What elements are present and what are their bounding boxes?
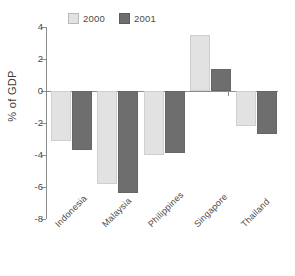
legend-swatch-2001 bbox=[119, 13, 130, 24]
legend-entry-2001: 2001 bbox=[119, 13, 156, 24]
bar-malaysia-2000 bbox=[97, 91, 117, 184]
y-tick-label: 4 bbox=[38, 22, 43, 32]
y-axis-title: % of GDP bbox=[6, 70, 18, 121]
y-axis-line bbox=[46, 27, 47, 219]
bar-philippines-2000 bbox=[144, 91, 164, 155]
bar-philippines-2001 bbox=[165, 91, 185, 153]
bar-thailand-2001 bbox=[257, 91, 277, 134]
y-tick-label: -2 bbox=[35, 118, 43, 128]
bar-thailand-2000 bbox=[236, 91, 256, 126]
x-tick-mark bbox=[228, 91, 229, 96]
bar-malaysia-2001 bbox=[118, 91, 138, 193]
y-tick-label: -4 bbox=[35, 150, 43, 160]
y-tick-label: 2 bbox=[38, 54, 43, 64]
bar-indonesia-2001 bbox=[72, 91, 92, 150]
y-tick-label: -6 bbox=[35, 182, 43, 192]
bar-chart: 2000 2001 % of GDP 420-2-4-6-8 Indonesia… bbox=[0, 0, 295, 276]
bar-singapore-2000 bbox=[190, 35, 210, 91]
y-tick-label: -8 bbox=[35, 214, 43, 224]
legend-label-2000: 2000 bbox=[83, 14, 105, 24]
bar-indonesia-2000 bbox=[51, 91, 71, 141]
plot-area: 420-2-4-6-8 bbox=[46, 27, 278, 219]
bar-singapore-2001 bbox=[211, 69, 231, 91]
legend-entry-2000: 2000 bbox=[68, 13, 105, 24]
legend-swatch-2000 bbox=[68, 13, 79, 24]
legend-label-2001: 2001 bbox=[134, 14, 156, 24]
chart-legend: 2000 2001 bbox=[68, 13, 156, 24]
y-tick-label: 0 bbox=[38, 86, 43, 96]
